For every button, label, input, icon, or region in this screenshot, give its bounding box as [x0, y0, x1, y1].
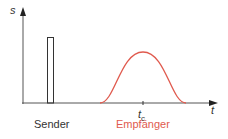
- receiver-label: Empfänger: [116, 118, 170, 130]
- sender-pulse: [48, 38, 54, 104]
- receiver-pulse: [100, 52, 186, 103]
- y-axis-label: s: [10, 4, 16, 16]
- y-axis-arrow-icon: [20, 7, 26, 16]
- sender-label: Sender: [34, 118, 69, 130]
- x-axis-label: t: [211, 104, 214, 116]
